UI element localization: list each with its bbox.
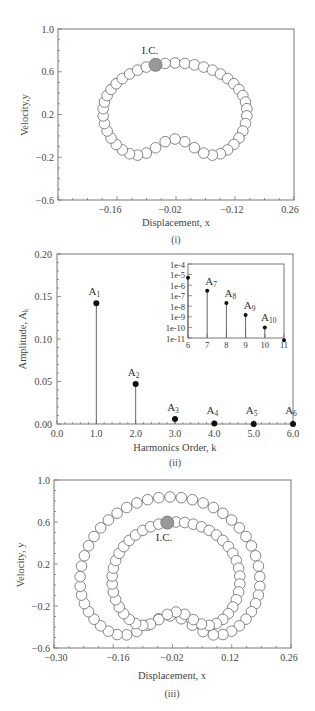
panel-label: (ii) [169, 457, 181, 469]
y-tick-label: 1e-8 [170, 302, 185, 312]
y-tick-label: 0.10 [35, 334, 53, 345]
orbit-marker [112, 508, 123, 519]
ic-annotation: I.C. [142, 44, 159, 56]
inset-log-plot: 1e-41e-51e-61e-71e-81e-91e-101e-11 67891… [166, 260, 288, 351]
orbit-marker [170, 134, 181, 145]
orbit-marker [170, 58, 181, 69]
axis-ticks [58, 29, 294, 200]
harmonic-label: A2 [128, 366, 140, 380]
figure: 1.00.60.2−0.2−0.6 −0.16−0.02−0.120.26 I.… [0, 0, 315, 711]
inset-harmonic-label: A10 [261, 311, 277, 325]
y-tick-label: −0.2 [32, 601, 50, 612]
harmonic-label: A3 [167, 401, 179, 415]
y-tick-label: 0.00 [35, 419, 53, 430]
x-tick-labels: −0.16−0.02−0.120.26 [98, 204, 298, 215]
y-tick-label: 1e-9 [170, 312, 185, 322]
amplitude-point [172, 416, 178, 422]
inset-point [205, 289, 209, 293]
orbit-curve [75, 492, 265, 640]
x-tick-label: −0.16 [106, 652, 129, 663]
x-tick-label: 0.0 [51, 428, 64, 439]
orbit-marker [180, 136, 191, 147]
x-tick-label: 10 [261, 340, 270, 350]
y-tick-label: 1e-10 [166, 323, 185, 333]
orbit-marker [198, 498, 209, 509]
inset-point [263, 325, 267, 329]
orbit-marker [180, 58, 191, 69]
x-tick-label: 5.0 [247, 428, 260, 439]
orbit-marker [121, 502, 132, 513]
phase-portrait-panel-i: 1.00.60.2−0.2−0.6 −0.16−0.02−0.120.26 I.… [19, 24, 299, 247]
initial-condition-marker [149, 58, 162, 71]
initial-condition-marker [161, 516, 174, 529]
y-axis-title: Velocity,y [19, 93, 30, 136]
orbit-marker [208, 630, 219, 641]
y-tick-label: 0.6 [42, 66, 55, 77]
phase-portrait-panel-iii: 1.00.60.2−0.2−0.6 −0.30−0.16−0.020.120.2… [15, 475, 298, 701]
orbit-marker [198, 148, 209, 159]
x-tick-label: −0.30 [44, 652, 67, 663]
y-tick-label: 0.6 [38, 517, 51, 528]
x-tick-label: −0.02 [158, 204, 181, 215]
x-tick-label: 0.26 [281, 204, 299, 215]
y-tick-labels: 1.00.60.2−0.2−0.6 [36, 24, 54, 206]
orbit-marker [189, 142, 200, 153]
amplitude-point [93, 300, 99, 306]
y-tick-labels: 0.200.150.100.050.00 [35, 249, 53, 430]
x-tick-label: 6 [186, 340, 190, 350]
inset-stems: A7A8A9A10 [186, 275, 286, 343]
orbit-marker [218, 629, 229, 640]
x-tick-label: 7 [205, 340, 209, 350]
harmonic-label: A4 [206, 404, 218, 418]
x-tick-label: 0.26 [280, 652, 298, 663]
y-tick-label: 1e-7 [170, 291, 185, 301]
harmonic-label: A5 [246, 404, 258, 418]
harmonic-label: A1 [88, 285, 100, 299]
harmonics-panel-ii: 0.200.150.100.050.00 0.01.02.03.04.05.06… [17, 249, 299, 470]
x-tick-label: 1.0 [90, 428, 103, 439]
inset-point [244, 313, 248, 317]
orbit-marker [150, 142, 161, 153]
y-tick-label: 1e-6 [170, 281, 185, 291]
orbit-marker [76, 561, 87, 572]
orbit-marker [121, 630, 132, 641]
orbit-marker [176, 492, 187, 503]
x-tick-label: 8 [224, 340, 228, 350]
y-axis-title-sub: k [21, 308, 30, 312]
inset-harmonic-label: A9 [244, 299, 256, 313]
inset-point [224, 301, 228, 305]
x-tick-label: −0.16 [98, 204, 121, 215]
orbit-marker [255, 571, 266, 582]
orbit-marker [218, 508, 229, 519]
orbit-marker [83, 541, 94, 552]
y-tick-label: 1.0 [42, 24, 55, 35]
y-tick-label: 1e-11 [166, 334, 185, 344]
ic-annotation: I.C. [156, 531, 173, 543]
orbit-marker [79, 550, 90, 561]
x-tick-label: 2.0 [129, 428, 142, 439]
orbit-marker [132, 498, 143, 509]
harmonic-label: A6 [285, 404, 297, 418]
orbit-marker [160, 136, 171, 147]
y-axis-title: Amplitude, Ak [17, 308, 30, 369]
y-tick-label: −0.2 [36, 152, 54, 163]
x-tick-label: 0.12 [221, 652, 239, 663]
orbit-marker [250, 550, 261, 561]
orbit-marker [75, 581, 86, 592]
amplitude-point [211, 421, 217, 427]
y-tick-label: −0.6 [36, 195, 54, 206]
y-tick-label: 1e-4 [170, 260, 186, 270]
x-axis-title: Displacement, x [142, 217, 211, 228]
x-tick-label: 3.0 [169, 428, 182, 439]
y-tick-label: 0.2 [38, 559, 51, 570]
amplitude-point [251, 421, 257, 427]
inset-y-tick-labels: 1e-41e-51e-61e-71e-81e-91e-101e-11 [166, 260, 186, 344]
y-tick-labels: 1.00.60.2−0.2−0.6 [32, 475, 50, 654]
orbit-marker [103, 515, 114, 526]
orbit-marker [246, 541, 257, 552]
x-tick-labels: 0.01.02.03.04.05.06.0 [51, 428, 300, 439]
orbit-marker [142, 494, 153, 505]
inset-harmonic-label: A8 [225, 287, 237, 301]
amplitude-stems: A1A2A3A4A5A6 [88, 285, 297, 427]
y-tick-label: 0.2 [42, 109, 55, 120]
